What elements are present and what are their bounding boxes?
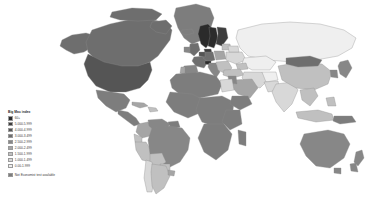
legend-item-label: 5.000-5.999	[15, 122, 32, 126]
legend-swatch-no-data	[8, 173, 13, 177]
legend-swatch	[8, 164, 13, 168]
region-australia	[300, 130, 350, 168]
region-united-kingdom	[189, 43, 200, 56]
legend-item[interactable]: 5.000-5.999	[8, 122, 80, 127]
region-uruguay	[168, 170, 175, 176]
region-argentina	[151, 164, 170, 194]
region-cuba	[132, 102, 148, 108]
legend-swatch	[8, 140, 13, 144]
region-southeast-asia	[300, 88, 318, 106]
region-poland	[214, 51, 226, 60]
region-finland	[216, 27, 228, 46]
legend-swatch	[8, 122, 13, 126]
legend-item[interactable]: 60+	[8, 116, 80, 121]
legend-item-label: 4.000-4.999	[15, 128, 32, 132]
legend-item-label: 0.00-1.999	[15, 164, 30, 168]
legend-swatch	[8, 128, 13, 132]
legend-item[interactable]: 1.000-1.499	[8, 157, 80, 162]
legend-item-label: 2.500-2.999	[15, 140, 32, 144]
legend-item-label: 2.000-2.499	[15, 146, 32, 150]
region-tasmania	[334, 168, 341, 174]
legend-swatch	[8, 146, 13, 150]
legend-swatch	[8, 152, 13, 156]
map-legend: Big Mac index 60+ 5.000-5.999 4.000-4.99…	[8, 110, 80, 178]
legend-item[interactable]: 2.000-2.499	[8, 145, 80, 150]
legend-swatch	[8, 158, 13, 162]
region-caucasus	[236, 63, 248, 70]
legend-item-no-data[interactable]: Not Economist test available	[8, 173, 80, 178]
legend-item[interactable]: 0.00-1.999	[8, 163, 80, 168]
legend-item-label: 3.000-3.499	[15, 134, 32, 138]
region-russia	[236, 22, 356, 62]
region-belarus	[228, 46, 239, 52]
legend-item[interactable]: 4.000-4.999	[8, 128, 80, 133]
legend-item-label: 60+	[15, 116, 20, 120]
legend-item[interactable]: 1.500-1.999	[8, 151, 80, 156]
region-central-america	[118, 110, 140, 126]
region-madagascar	[238, 130, 246, 146]
region-benelux	[199, 52, 205, 57]
region-philippines	[326, 97, 336, 106]
region-new-guinea	[333, 116, 356, 124]
region-japan	[338, 60, 352, 78]
legend-no-data-label: Not Economist test available	[15, 173, 55, 177]
region-ireland	[184, 47, 190, 53]
region-canada-arctic	[110, 8, 162, 21]
legend-swatch	[8, 134, 13, 138]
region-korea	[330, 70, 338, 78]
world-map-figure: Big Mac index 60+ 5.000-5.999 4.000-4.99…	[0, 0, 366, 199]
region-indonesia	[296, 110, 334, 122]
legend-item-label: 1.500-1.999	[15, 152, 32, 156]
legend-item[interactable]: 3.000-3.499	[8, 133, 80, 138]
region-egypt	[220, 79, 234, 92]
region-hispaniola	[148, 107, 158, 112]
legend-item[interactable]: 2.500-2.999	[8, 139, 80, 144]
legend-title: Big Mac index	[8, 110, 80, 114]
region-southern-africa	[198, 124, 232, 160]
legend-item-label: 1.000-1.499	[15, 158, 32, 162]
region-mexico	[96, 90, 130, 112]
legend-swatch	[8, 116, 13, 120]
